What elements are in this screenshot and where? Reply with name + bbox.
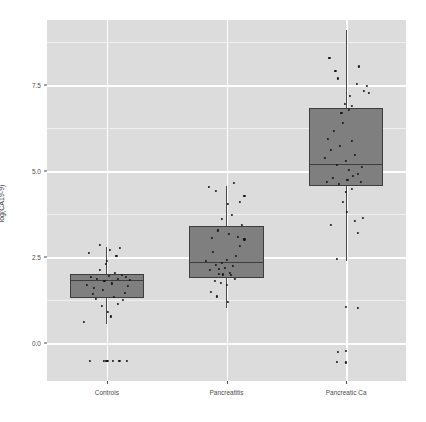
y-axis-tick-mark — [44, 85, 47, 86]
x-axis-tick-mark — [227, 381, 228, 384]
x-axis-tick-label-controls: Controls — [95, 389, 119, 396]
chart-figure: log(CA19-9) 0.02.55.07.5 ControlsPancrea… — [0, 0, 426, 422]
y-axis-tick-label: 5.0 — [32, 168, 41, 175]
x-axis-tick-mark — [107, 381, 108, 384]
y-axis-tick-label: 2.5 — [32, 254, 41, 261]
y-axis-tick-mark — [44, 343, 47, 344]
axis-layer: log(CA19-9) 0.02.55.07.5 ControlsPancrea… — [0, 0, 426, 422]
y-axis-tick-mark — [44, 171, 47, 172]
y-axis-tick-label: 0.0 — [32, 340, 41, 347]
y-axis-tick-mark — [44, 257, 47, 258]
y-axis-title: log(CA19-9) — [0, 185, 5, 223]
x-axis-tick-mark — [346, 381, 347, 384]
y-axis-tick-label: 7.5 — [32, 82, 41, 89]
x-axis-tick-label-pancreatic-ca: Pancreatic Ca — [326, 389, 367, 396]
x-axis-tick-label-pancreatitis: Pancreatitis — [210, 389, 244, 396]
